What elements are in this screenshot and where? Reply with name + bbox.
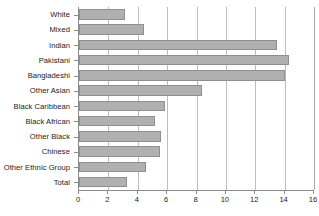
x-tick-label: 16: [309, 195, 317, 204]
bar: [79, 24, 144, 35]
bar: [79, 40, 277, 51]
category-tick: [74, 152, 78, 153]
bar: [79, 70, 285, 81]
x-tick: [254, 190, 255, 194]
x-tick-label: 4: [135, 195, 139, 204]
x-axis-tick-labels: 0246810121416: [78, 195, 314, 209]
x-tick-label: 2: [105, 195, 109, 204]
bar-row: [79, 129, 314, 144]
x-tick-label: 14: [279, 195, 287, 204]
bar-row: [79, 175, 314, 190]
bar: [79, 9, 125, 20]
category-tick: [74, 137, 78, 138]
x-tick-label: 6: [164, 195, 168, 204]
bar: [79, 85, 202, 96]
x-tick: [313, 190, 314, 194]
bar-series: [79, 7, 314, 190]
category-label: Black African: [0, 114, 74, 129]
bar-row: [79, 144, 314, 159]
category-tick: [74, 76, 78, 77]
category-tick: [74, 106, 78, 107]
bar-chart: WhiteMixedIndianPakistaniBangladeshiOthe…: [0, 0, 319, 216]
bar-row: [79, 53, 314, 68]
category-label: Indian: [0, 38, 74, 53]
bar: [79, 101, 165, 112]
x-tick-label: 0: [76, 195, 80, 204]
category-label: Total: [0, 175, 74, 190]
gridline: [314, 7, 315, 190]
category-tick: [74, 45, 78, 46]
category-label: Mixed: [0, 22, 74, 37]
category-tick: [74, 91, 78, 92]
bar: [79, 116, 155, 127]
category-tick: [74, 182, 78, 183]
bar-row: [79, 7, 314, 22]
category-label: Black Caribbean: [0, 99, 74, 114]
bar-row: [79, 22, 314, 37]
category-label: Other Ethnic Group: [0, 160, 74, 175]
bar-row: [79, 83, 314, 98]
bar: [79, 146, 160, 157]
category-label: Bangladeshi: [0, 68, 74, 83]
bar-row: [79, 114, 314, 129]
bar-row: [79, 38, 314, 53]
x-tick: [284, 190, 285, 194]
x-tick: [78, 190, 79, 194]
x-tick: [225, 190, 226, 194]
bar: [79, 131, 161, 142]
category-tick: [74, 167, 78, 168]
bar-row: [79, 99, 314, 114]
category-tick: [74, 15, 78, 16]
category-label: Chinese: [0, 144, 74, 159]
category-axis-labels: WhiteMixedIndianPakistaniBangladeshiOthe…: [0, 7, 74, 190]
bar: [79, 55, 289, 66]
category-label: Other Asian: [0, 83, 74, 98]
x-tick: [196, 190, 197, 194]
bar-row: [79, 160, 314, 175]
bar: [79, 177, 127, 188]
x-tick: [166, 190, 167, 194]
category-tick: [74, 121, 78, 122]
x-tick: [107, 190, 108, 194]
plot-area: [78, 7, 314, 190]
category-tick: [74, 30, 78, 31]
x-tick-label: 8: [193, 195, 197, 204]
x-tick: [137, 190, 138, 194]
category-label: Pakistani: [0, 53, 74, 68]
category-axis-ticks: [74, 7, 78, 191]
x-tick-label: 12: [250, 195, 258, 204]
bar-row: [79, 68, 314, 83]
category-label: White: [0, 7, 74, 22]
x-tick-label: 10: [221, 195, 229, 204]
category-tick: [74, 60, 78, 61]
bar: [79, 162, 146, 173]
category-label: Other Black: [0, 129, 74, 144]
